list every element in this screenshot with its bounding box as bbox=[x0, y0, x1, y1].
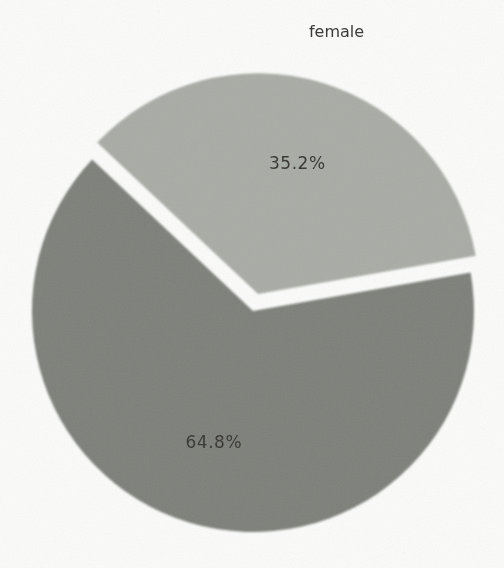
scan-grain-overlay bbox=[0, 0, 504, 568]
pie-chart: 35.2% 64.8% female bbox=[0, 0, 504, 568]
pie-chart-figure: 35.2% 64.8% female bbox=[0, 0, 504, 568]
